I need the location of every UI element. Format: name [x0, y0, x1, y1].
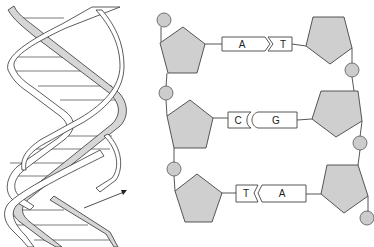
base-label: A	[279, 188, 286, 199]
sugar-pentagon-right-3	[321, 165, 368, 213]
backbone-bond	[174, 176, 175, 191]
sugar-pentagon-left-2	[167, 100, 213, 148]
base-label: G	[272, 115, 280, 126]
phosphate-circle	[159, 86, 173, 100]
base-label: T	[243, 188, 249, 199]
backbone-bond	[166, 73, 167, 87]
backbone-bond	[360, 121, 362, 137]
sugar-pentagon-right-1	[306, 17, 352, 64]
backbone-bond	[166, 100, 167, 116]
sugar-pentagon-left-3	[175, 174, 222, 222]
helix-front-strand-upper	[7, 7, 120, 210]
helix-bottom-strand	[50, 196, 118, 247]
base-label: T	[280, 39, 286, 50]
dna-diagram: A T C G T A	[0, 0, 374, 247]
backbone-bond	[352, 77, 354, 91]
base-A	[222, 37, 270, 51]
pointer-arrow	[84, 190, 127, 208]
base-label: A	[239, 39, 246, 50]
backbone-bond	[358, 150, 360, 165]
base-label: C	[234, 115, 241, 126]
sugar-pentagon-left-1	[160, 27, 205, 73]
double-helix	[5, 6, 127, 247]
phosphate-circle	[353, 136, 367, 150]
phosphate-circle	[167, 162, 181, 176]
phosphate-circle	[157, 13, 171, 27]
phosphate-circle	[360, 211, 374, 225]
sugar-pentagon-right-2	[312, 91, 362, 137]
phosphate-circle	[345, 63, 359, 77]
